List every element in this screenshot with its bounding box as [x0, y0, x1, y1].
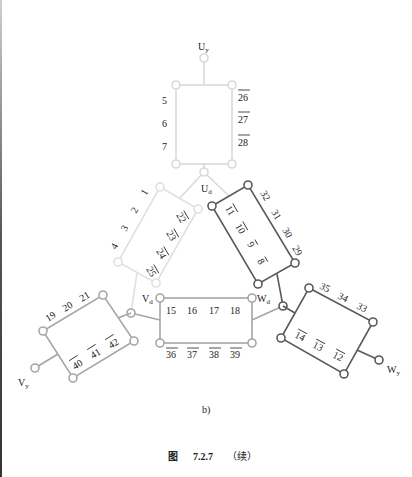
svg-text:31: 31: [269, 208, 284, 222]
svg-text:12: 12: [331, 349, 345, 363]
caption-prefix: 图: [168, 451, 178, 462]
svg-text:17: 17: [209, 305, 219, 316]
svg-text:15: 15: [166, 305, 176, 316]
svg-text:33: 33: [355, 300, 369, 314]
svg-text:40: 40: [70, 357, 84, 372]
center-top-numbers: 15 16 17 18: [166, 305, 240, 316]
coil-group-v-left: [35, 295, 134, 378]
winding-diagram: Uy 5 6 7 26 27 28 Ud 1 2 3 4 22 23 24 25: [0, 0, 412, 477]
caption-number: 7.2.7: [193, 451, 213, 462]
svg-text:Vd: Vd: [142, 293, 153, 306]
svg-text:38: 38: [209, 349, 219, 360]
u-top-right-numbers: 26 27 28: [238, 90, 250, 148]
w-right-outer-numbers: 32 31 30 29: [258, 189, 305, 258]
svg-text:34: 34: [336, 290, 350, 304]
svg-text:16: 16: [187, 305, 197, 316]
svg-text:22: 22: [174, 211, 189, 225]
coil-group-center: [131, 298, 283, 343]
caption-suffix: （续）: [227, 450, 257, 462]
svg-text:Wd: Wd: [257, 293, 270, 306]
svg-text:36: 36: [166, 349, 176, 360]
svg-text:19: 19: [43, 309, 57, 324]
terminal-vd-label: Vd: [142, 293, 153, 306]
svg-text:Ud: Ud: [201, 183, 212, 196]
svg-text:42: 42: [106, 336, 120, 351]
svg-text:4: 4: [108, 241, 120, 251]
svg-text:27: 27: [238, 114, 248, 125]
svg-text:14: 14: [293, 329, 307, 343]
terminal-ud-label: Ud: [201, 183, 212, 196]
u-left-inner-numbers: 22 23 24 25: [144, 211, 189, 279]
svg-text:9: 9: [245, 240, 257, 250]
coil-group-u-top: [176, 58, 232, 198]
svg-text:21: 21: [77, 289, 91, 304]
svg-text:25: 25: [144, 265, 159, 279]
svg-text:37: 37: [187, 349, 197, 360]
coil-group-w-lower: [281, 288, 379, 374]
svg-text:Vy: Vy: [18, 377, 29, 390]
figure-sublabel: b): [202, 404, 210, 416]
center-bottom-numbers: 36 37 38 39: [166, 348, 242, 360]
svg-text:13: 13: [311, 339, 325, 353]
svg-text:3: 3: [118, 223, 130, 233]
svg-text:18: 18: [230, 305, 240, 316]
svg-text:20: 20: [60, 299, 74, 314]
center-nodes: [156, 294, 256, 347]
svg-text:39: 39: [230, 349, 240, 360]
svg-text:Wy: Wy: [387, 364, 400, 377]
svg-text:6: 6: [162, 118, 167, 129]
svg-text:30: 30: [280, 226, 295, 240]
svg-text:28: 28: [238, 137, 248, 148]
u-top-left-numbers: 5 6 7: [162, 95, 167, 152]
svg-text:24: 24: [154, 247, 169, 261]
svg-text:32: 32: [258, 189, 273, 203]
svg-text:41: 41: [88, 346, 102, 361]
w-lower-inner-numbers: 14 13 12: [293, 329, 345, 363]
figure-caption: 图 7.2.7 （续）: [168, 450, 257, 462]
svg-text:23: 23: [164, 229, 179, 243]
svg-text:10: 10: [233, 222, 248, 236]
terminal-wd-label: Wd: [257, 293, 270, 306]
svg-text:29: 29: [290, 244, 305, 258]
terminal-vy-label: Vy: [18, 377, 29, 390]
svg-text:35: 35: [318, 280, 332, 294]
svg-text:8: 8: [255, 257, 267, 267]
svg-text:11: 11: [223, 204, 237, 218]
svg-text:7: 7: [162, 141, 167, 152]
terminal-wy-label: Wy: [387, 364, 400, 377]
terminal-uy-label: Uy: [198, 41, 209, 54]
svg-text:26: 26: [238, 92, 248, 103]
svg-text:Uy: Uy: [198, 41, 209, 54]
svg-text:2: 2: [128, 205, 140, 215]
svg-text:5: 5: [162, 95, 167, 106]
svg-text:1: 1: [138, 187, 150, 197]
